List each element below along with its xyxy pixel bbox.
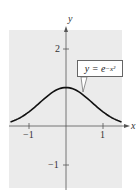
x-tick-label-neg1: −1: [23, 130, 34, 140]
y-axis-label: y: [68, 14, 72, 24]
equation-label: y = e−x²: [77, 60, 123, 77]
y-axis-arrow-icon: [64, 26, 68, 32]
x-axis-arrow-icon: [124, 124, 130, 128]
plot-background: [9, 30, 122, 188]
equation-exponent: −x²: [105, 65, 115, 73]
x-tick-label-1: 1: [100, 130, 105, 140]
y-tick-label-neg1: −1: [48, 160, 59, 170]
x-axis-label: x: [131, 121, 135, 131]
plot-area: [0, 0, 140, 194]
equation-text: y = e: [85, 63, 106, 74]
y-tick-label-2: 2: [55, 44, 60, 54]
